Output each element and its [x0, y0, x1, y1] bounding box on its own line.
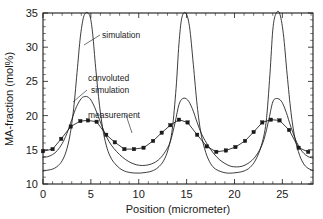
data-markers	[41, 118, 310, 154]
annotation-convoluted-simulation-line1: convoluted	[88, 73, 129, 83]
y-tick-label: 15	[26, 144, 38, 156]
data-point-marker	[252, 130, 255, 133]
data-point-marker	[41, 149, 44, 152]
y-tick-label: 30	[26, 41, 38, 53]
y-axis-title: MA-fraction (mol%)	[3, 52, 15, 146]
data-point-marker	[160, 131, 163, 134]
annotations: simulationconvolutedsimulationmeasuremen…	[73, 30, 141, 133]
series-simulation	[43, 11, 313, 173]
data-point-marker	[132, 147, 135, 150]
data-point-marker	[69, 125, 72, 128]
data-point-marker	[234, 145, 237, 148]
data-point-marker	[205, 145, 208, 148]
data-point-marker	[142, 146, 145, 149]
y-tick-label: 25	[26, 75, 38, 87]
x-tick-label: 10	[133, 188, 145, 200]
data-point-marker	[51, 147, 54, 150]
data-point-marker	[123, 147, 126, 150]
data-point-marker	[287, 128, 290, 131]
x-axis-title: Position (micrometer)	[126, 203, 231, 215]
chart-figure: 0510152025101520253035 simulationconvolu…	[0, 0, 323, 219]
annotation-convoluted-simulation-line2: simulation	[91, 85, 130, 95]
data-point-marker	[59, 137, 62, 140]
data-point-marker	[113, 141, 116, 144]
annotation-leader-line	[84, 35, 100, 45]
x-tick-label: 15	[180, 188, 192, 200]
chart-svg: 0510152025101520253035 simulationconvolu…	[0, 0, 323, 219]
series-convoluted-simulation	[43, 96, 313, 167]
data-point-marker	[195, 133, 198, 136]
data-point-marker	[243, 139, 246, 142]
data-point-marker	[79, 119, 82, 122]
data-point-marker	[297, 146, 300, 149]
data-point-marker	[215, 150, 218, 153]
x-tick-label: 20	[228, 188, 240, 200]
data-point-marker	[261, 121, 264, 124]
annotation-measurement: measurement	[88, 110, 141, 120]
data-point-marker	[224, 149, 227, 152]
data-point-marker	[169, 123, 172, 126]
annotation-simulation: simulation	[102, 30, 141, 40]
data-point-marker	[95, 120, 98, 123]
data-point-marker	[269, 118, 272, 121]
y-tick-label: 20	[26, 110, 38, 122]
data-curves	[43, 11, 313, 173]
x-tick-label: 0	[40, 188, 46, 200]
data-point-marker	[104, 133, 107, 136]
x-tick-label: 5	[88, 188, 94, 200]
data-point-marker	[307, 150, 310, 153]
series-measurement	[43, 120, 308, 152]
data-point-marker	[186, 121, 189, 124]
data-point-marker	[177, 118, 180, 121]
data-point-marker	[278, 119, 281, 122]
y-tick-label: 35	[26, 7, 38, 19]
tick-labels: 0510152025101520253035	[26, 7, 289, 200]
data-point-marker	[151, 139, 154, 142]
x-tick-label: 25	[276, 188, 288, 200]
y-tick-label: 10	[26, 178, 38, 190]
